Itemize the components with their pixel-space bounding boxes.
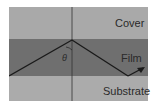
angle-label: θ <box>62 53 67 63</box>
reflected-ray <box>72 40 128 76</box>
substrate-label: Substrate <box>103 85 150 97</box>
angle-arc <box>66 47 72 50</box>
waveguide-diagram: θ Cover Film Substrate <box>9 7 148 101</box>
film-label: Film <box>121 52 142 64</box>
cover-label: Cover <box>115 17 144 29</box>
